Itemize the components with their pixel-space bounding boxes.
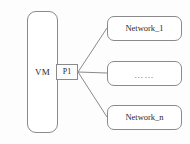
connector-port-to-network-n [78,72,107,117]
connector-port-to-network-1 [78,28,107,72]
vm-node-label: VM [35,68,50,77]
vm-node[interactable]: VM [27,11,58,133]
network-node-ellipsis[interactable]: …… [107,61,182,86]
vm-network-diagram: VM P1 Network_1 …… Network_n [0,0,190,144]
network-node-ellipsis-label: …… [134,71,154,80]
network-node-n[interactable]: Network_n [107,105,182,130]
connector-port-to-network-middle [78,72,107,73]
network-node-1[interactable]: Network_1 [107,16,182,41]
port-node-p1[interactable]: P1 [56,64,78,80]
port-node-label: P1 [63,68,71,76]
network-node-n-label: Network_n [125,113,163,122]
network-node-1-label: Network_1 [125,24,163,33]
